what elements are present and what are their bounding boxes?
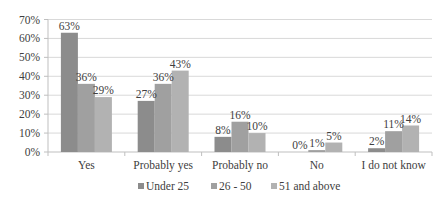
y-tick-label: 20% [19,108,41,120]
legend-label: Under 25 [146,180,189,192]
legend-label: 26 - 50 [219,180,252,192]
legend-label: 51 and above [279,180,340,192]
bar [95,97,112,152]
data-label: 14% [400,113,422,125]
y-tick-label: 0% [25,146,41,158]
data-label: 2% [369,135,385,147]
data-label: 16% [229,109,251,121]
bar [385,131,402,152]
data-label: 5% [326,130,342,142]
y-tick-label: 40% [19,70,41,82]
data-label: 0% [292,139,308,151]
x-axis-categories: YesProbably yesProbably noNoI do not kno… [78,159,426,172]
data-label: 1% [309,137,325,149]
bar [155,84,172,152]
data-label: 36% [153,71,175,83]
legend: Under 2526 - 5051 and above [138,180,340,192]
data-label: 8% [215,124,231,136]
y-axis-ticks: 0%10%20%30%40%50%60%70% [19,14,41,159]
bar [368,148,385,152]
y-tick-label: 10% [19,127,41,139]
y-tick-label: 60% [19,32,41,44]
y-tick-label: 50% [19,51,41,63]
bar [249,133,266,152]
bar [325,143,342,152]
y-tick-label: 30% [19,89,41,101]
data-label: 29% [93,84,115,96]
bar-chart: 0%10%20%30%40%50%60%70% 63%36%29%27%36%4… [0,0,448,208]
category-label: Yes [78,159,95,171]
data-label: 27% [136,88,158,100]
legend-swatch [271,183,277,189]
category-label: I do not know [361,159,426,171]
category-label: No [310,159,324,171]
bar [308,150,325,152]
data-label: 43% [170,58,192,70]
bar [402,126,419,153]
data-label: 36% [76,71,98,83]
legend-swatch [138,183,144,189]
data-label: 63% [59,20,81,32]
bar [172,71,189,152]
bars [61,33,419,152]
legend-swatch [211,183,217,189]
bar [61,33,78,152]
category-label: Probably yes [133,159,193,172]
y-tick-label: 70% [19,14,41,26]
bar [215,137,232,152]
data-label: 10% [246,120,268,132]
bar [138,101,155,152]
category-label: Probably no [212,159,268,172]
